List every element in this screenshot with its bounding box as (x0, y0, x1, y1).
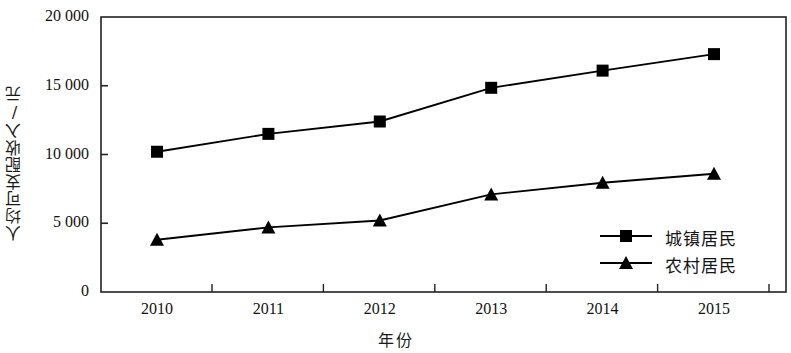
series-line-1 (157, 54, 714, 152)
data-point-marker-square (597, 65, 609, 77)
y-axis-tick-label: 0 (0, 282, 89, 300)
line-chart-figure: 人均可支配收入/元 年份 05 00010 00015 00020 000 20… (0, 0, 791, 353)
legend-item-label-1: 城镇居民 (665, 225, 737, 250)
x-axis-tick-label: 2015 (674, 300, 754, 318)
legend-marker-square (620, 230, 632, 242)
data-point-marker-square (708, 48, 720, 60)
data-point-marker-square (485, 82, 497, 94)
data-point-marker-square (151, 146, 163, 158)
y-axis-tick-label: 15 000 (0, 76, 89, 94)
series-line-2 (157, 174, 714, 240)
y-axis-tick-label: 20 000 (0, 7, 89, 25)
x-axis-tick-label: 2012 (340, 300, 420, 318)
x-axis-tick-label: 2010 (117, 300, 197, 318)
x-axis-tick-label: 2014 (563, 300, 643, 318)
data-point-marker-square (374, 116, 386, 128)
y-axis-tick-label: 5 000 (0, 213, 89, 231)
x-axis-tick-label: 2011 (228, 300, 308, 318)
data-point-marker-square (262, 128, 274, 140)
y-axis-tick-label: 10 000 (0, 145, 89, 163)
x-axis-title: 年份 (0, 327, 791, 351)
x-axis-tick-label: 2013 (451, 300, 531, 318)
legend-item-label-2: 农村居民 (665, 252, 737, 277)
